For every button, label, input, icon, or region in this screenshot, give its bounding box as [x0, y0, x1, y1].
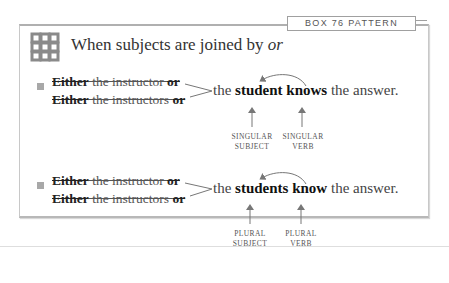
diagram-arrows — [0, 0, 449, 283]
page-divider — [0, 246, 449, 247]
